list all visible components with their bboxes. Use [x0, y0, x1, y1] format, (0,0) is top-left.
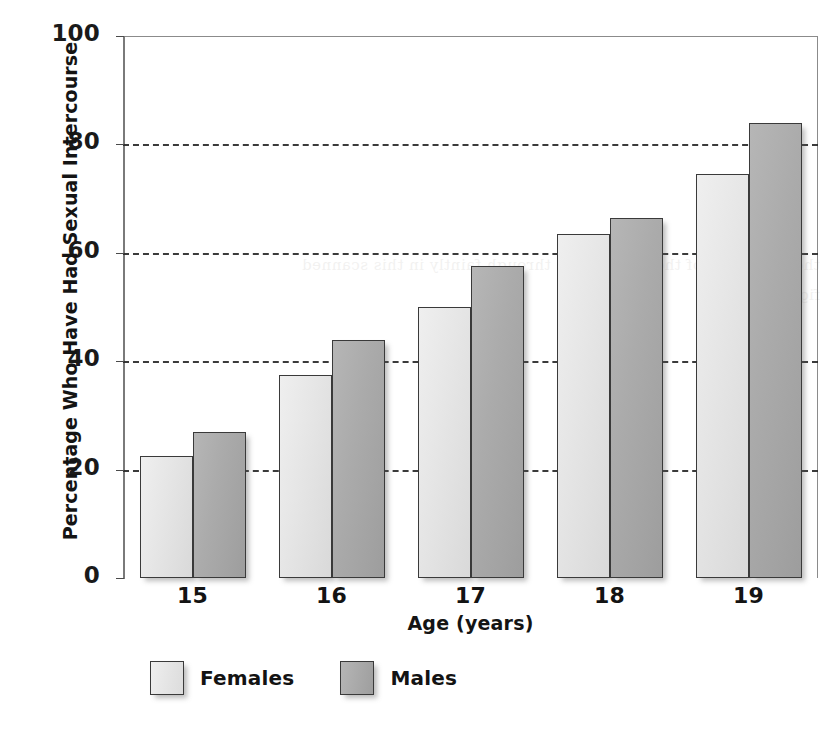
bar-males-age-19: [749, 123, 802, 578]
bar-females-age-18: [557, 234, 610, 578]
bars-layer: [123, 36, 818, 578]
bar-females-age-15: [140, 456, 193, 578]
bar-males-age-15: [193, 432, 246, 578]
bar-males-age-17: [471, 266, 524, 578]
bar-males-age-16: [332, 340, 385, 578]
legend-item-females: Females: [150, 661, 294, 695]
legend-swatch-females-icon: [150, 661, 184, 695]
x-tick-label-18: 18: [540, 583, 679, 608]
y-tick-0: [116, 578, 124, 579]
y-axis-title: Percentage Who Have Had Sexual Intercour…: [59, 11, 81, 571]
legend-swatch-males-icon: [340, 661, 374, 695]
bar-chart-figure: the other side of the page shows through…: [0, 0, 839, 730]
x-tick-label-16: 16: [262, 583, 401, 608]
bar-females-age-16: [279, 375, 332, 578]
chart-legend: Females Males: [150, 661, 457, 695]
legend-item-males: Males: [340, 661, 457, 695]
legend-label-males: Males: [390, 666, 457, 690]
x-tick-label-17: 17: [401, 583, 540, 608]
bar-females-age-19: [696, 174, 749, 578]
x-tick-label-15: 15: [123, 583, 262, 608]
x-axis-title: Age (years): [123, 612, 818, 634]
bar-females-age-17: [418, 307, 471, 578]
legend-label-females: Females: [200, 666, 294, 690]
x-tick-label-19: 19: [679, 583, 818, 608]
bar-males-age-18: [610, 218, 663, 578]
